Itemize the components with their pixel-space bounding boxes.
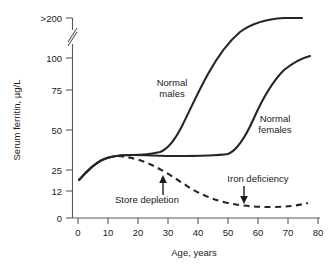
- y-tick-label-25: 25: [51, 165, 62, 176]
- annotation-iron-deficiency-label: Iron deficiency: [227, 173, 289, 184]
- annotation-normal-females-line2: females: [258, 124, 292, 135]
- y-tick-label-12: 12: [51, 186, 62, 197]
- annotation-store-depletion-label: Store depletion: [115, 194, 179, 205]
- serum-ferritin-chart: >200 100 75 50 25 12 0 0 10 20 30 40 50 …: [0, 0, 330, 268]
- x-tick-label-10: 10: [103, 227, 114, 238]
- axis-break-icon: [68, 28, 77, 46]
- x-tick-label-20: 20: [133, 227, 144, 238]
- annotation-normal-females-line1: Normal: [260, 113, 291, 124]
- y-axis-title: Serum ferritin, µg/L: [11, 80, 22, 161]
- annotation-normal-males-line1: Normal: [157, 77, 188, 88]
- x-tick-label-50: 50: [223, 227, 234, 238]
- y-tick-label-200: >200: [41, 13, 62, 24]
- y-tick-label-0: 0: [57, 213, 62, 224]
- x-tick-label-80: 80: [313, 227, 324, 238]
- x-tick-label-70: 70: [283, 227, 294, 238]
- x-tick-label-0: 0: [75, 227, 80, 238]
- y-tick-label-75: 75: [51, 85, 62, 96]
- x-tick-label-30: 30: [163, 227, 174, 238]
- annotation-normal-males-line2: males: [159, 88, 185, 99]
- x-tick-label-60: 60: [253, 227, 264, 238]
- y-tick-label-100: 100: [46, 53, 62, 64]
- iron-deficiency-arrow-icon: [240, 186, 248, 204]
- x-axis-title: Age, years: [171, 247, 217, 258]
- store-depletion-arrow-icon: [159, 175, 167, 195]
- y-tick-label-50: 50: [51, 125, 62, 136]
- x-tick-label-40: 40: [193, 227, 204, 238]
